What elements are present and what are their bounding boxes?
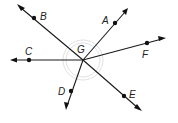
arrowhead-icon — [64, 102, 69, 110]
ray-GE: E — [83, 60, 142, 111]
label-D: D — [58, 86, 65, 97]
label-F: F — [142, 49, 149, 60]
ray-GD: D — [58, 60, 83, 110]
label-C: C — [25, 46, 33, 57]
point-C — [27, 58, 31, 62]
ray-GC: C — [10, 46, 83, 63]
point-D — [69, 89, 73, 93]
ray-GA: A — [83, 8, 128, 60]
label-G: G — [77, 44, 85, 55]
geometry-diagram: B A F C D E G — [0, 0, 178, 123]
label-E: E — [129, 89, 136, 100]
point-A — [113, 21, 117, 25]
arrowhead-icon — [158, 36, 166, 41]
point-F — [145, 41, 149, 45]
label-B: B — [40, 11, 47, 22]
arrowhead-icon — [10, 58, 17, 63]
point-E — [122, 94, 126, 98]
label-A: A — [101, 15, 109, 26]
point-B — [32, 16, 36, 20]
